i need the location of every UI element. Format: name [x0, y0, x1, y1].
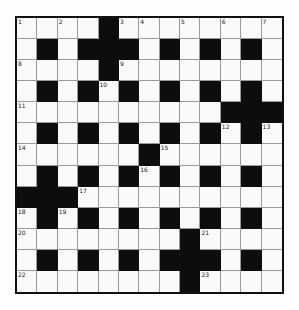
crossword-cell[interactable] — [160, 18, 180, 39]
crossword-cell[interactable] — [99, 123, 119, 144]
crossword-cell[interactable] — [180, 144, 200, 165]
crossword-cell[interactable]: 14 — [17, 144, 37, 165]
crossword-cell[interactable] — [37, 60, 57, 81]
crossword-cell[interactable]: 5 — [180, 18, 200, 39]
crossword-cell[interactable] — [262, 60, 282, 81]
crossword-cell[interactable] — [139, 208, 159, 229]
crossword-cell[interactable]: 22 — [17, 271, 37, 292]
crossword-cell[interactable] — [180, 208, 200, 229]
crossword-cell[interactable] — [180, 60, 200, 81]
crossword-cell[interactable] — [221, 39, 241, 60]
crossword-cell[interactable] — [99, 271, 119, 292]
crossword-cell[interactable] — [221, 144, 241, 165]
crossword-cell[interactable] — [180, 39, 200, 60]
crossword-cell[interactable] — [200, 102, 220, 123]
crossword-cell[interactable] — [37, 229, 57, 250]
crossword-cell[interactable] — [58, 229, 78, 250]
crossword-cell[interactable] — [241, 187, 261, 208]
crossword-cell[interactable] — [139, 123, 159, 144]
crossword-cell[interactable] — [180, 81, 200, 102]
crossword-cell[interactable] — [200, 60, 220, 81]
crossword-cell[interactable] — [58, 250, 78, 271]
crossword-cell[interactable] — [58, 271, 78, 292]
crossword-cell[interactable] — [241, 229, 261, 250]
crossword-cell[interactable] — [221, 187, 241, 208]
crossword-cell[interactable] — [78, 102, 98, 123]
crossword-cell[interactable] — [160, 187, 180, 208]
crossword-cell[interactable] — [139, 229, 159, 250]
crossword-cell[interactable] — [139, 250, 159, 271]
crossword-cell[interactable]: 19 — [58, 208, 78, 229]
crossword-cell[interactable] — [241, 60, 261, 81]
crossword-cell[interactable] — [58, 81, 78, 102]
crossword-cell[interactable] — [17, 166, 37, 187]
crossword-cell[interactable] — [37, 271, 57, 292]
crossword-cell[interactable] — [221, 81, 241, 102]
crossword-cell[interactable] — [17, 250, 37, 271]
crossword-cell[interactable]: 23 — [200, 271, 220, 292]
crossword-cell[interactable] — [262, 271, 282, 292]
crossword-cell[interactable] — [262, 250, 282, 271]
crossword-cell[interactable] — [262, 39, 282, 60]
crossword-cell[interactable] — [58, 39, 78, 60]
crossword-cell[interactable] — [160, 229, 180, 250]
crossword-cell[interactable] — [180, 187, 200, 208]
crossword-cell[interactable] — [180, 102, 200, 123]
crossword-cell[interactable] — [241, 144, 261, 165]
crossword-cell[interactable] — [139, 187, 159, 208]
crossword-cell[interactable]: 10 — [99, 81, 119, 102]
crossword-cell[interactable]: 13 — [262, 123, 282, 144]
crossword-cell[interactable] — [37, 102, 57, 123]
crossword-cell[interactable] — [221, 60, 241, 81]
crossword-cell[interactable] — [221, 166, 241, 187]
crossword-cell[interactable] — [200, 187, 220, 208]
crossword-cell[interactable] — [99, 250, 119, 271]
crossword-cell[interactable] — [262, 81, 282, 102]
crossword-cell[interactable] — [37, 18, 57, 39]
crossword-cell[interactable] — [119, 102, 139, 123]
crossword-cell[interactable] — [262, 208, 282, 229]
crossword-cell[interactable]: 3 — [119, 18, 139, 39]
crossword-cell[interactable] — [58, 123, 78, 144]
crossword-cell[interactable] — [200, 18, 220, 39]
crossword-cell[interactable] — [17, 81, 37, 102]
crossword-cell[interactable] — [139, 271, 159, 292]
crossword-cell[interactable] — [99, 166, 119, 187]
crossword-cell[interactable]: 9 — [119, 60, 139, 81]
crossword-cell[interactable] — [262, 187, 282, 208]
crossword-cell[interactable]: 20 — [17, 229, 37, 250]
crossword-cell[interactable] — [58, 144, 78, 165]
crossword-cell[interactable] — [78, 229, 98, 250]
crossword-cell[interactable] — [200, 144, 220, 165]
crossword-cell[interactable] — [99, 229, 119, 250]
crossword-cell[interactable]: 8 — [17, 60, 37, 81]
crossword-cell[interactable] — [221, 208, 241, 229]
crossword-cell[interactable] — [160, 271, 180, 292]
crossword-cell[interactable] — [160, 60, 180, 81]
crossword-cell[interactable] — [139, 102, 159, 123]
crossword-cell[interactable]: 12 — [221, 123, 241, 144]
crossword-cell[interactable]: 18 — [17, 208, 37, 229]
crossword-cell[interactable] — [262, 166, 282, 187]
crossword-cell[interactable] — [262, 144, 282, 165]
crossword-cell[interactable] — [119, 229, 139, 250]
crossword-cell[interactable] — [180, 166, 200, 187]
crossword-cell[interactable]: 21 — [200, 229, 220, 250]
crossword-cell[interactable]: 15 — [160, 144, 180, 165]
crossword-cell[interactable] — [78, 60, 98, 81]
crossword-cell[interactable] — [241, 18, 261, 39]
crossword-cell[interactable] — [37, 144, 57, 165]
crossword-cell[interactable] — [58, 166, 78, 187]
crossword-cell[interactable]: 17 — [78, 187, 98, 208]
crossword-cell[interactable]: 1 — [17, 18, 37, 39]
crossword-cell[interactable] — [139, 81, 159, 102]
crossword-cell[interactable] — [99, 144, 119, 165]
crossword-cell[interactable] — [262, 229, 282, 250]
crossword-cell[interactable] — [78, 271, 98, 292]
crossword-cell[interactable] — [139, 60, 159, 81]
crossword-cell[interactable]: 2 — [58, 18, 78, 39]
crossword-cell[interactable] — [17, 123, 37, 144]
crossword-cell[interactable]: 6 — [221, 18, 241, 39]
crossword-cell[interactable]: 16 — [139, 166, 159, 187]
crossword-cell[interactable] — [160, 102, 180, 123]
